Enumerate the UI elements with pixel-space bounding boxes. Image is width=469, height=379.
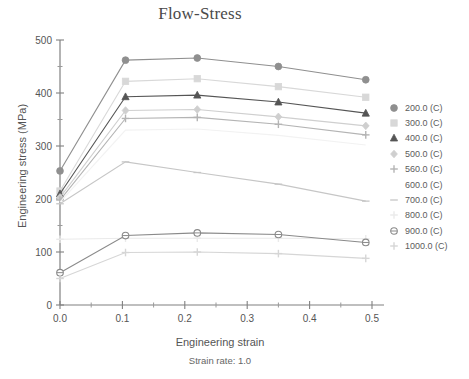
x-tick-label: 0.3 <box>240 313 254 324</box>
square-marker-icon <box>391 120 397 126</box>
series-400-0-c- <box>56 91 369 196</box>
series-560-0-c- <box>56 114 369 204</box>
circle-open-marker-icon <box>386 224 402 238</box>
y-tick-label: 0 <box>46 300 52 311</box>
legend-item-label: 500.0 (C) <box>402 149 443 159</box>
dash-marker-icon <box>386 193 402 207</box>
square-marker-icon <box>122 78 128 84</box>
marker-icon <box>386 208 402 222</box>
square-marker-icon <box>194 75 200 81</box>
x-axis-label: Engineering strain <box>55 336 385 348</box>
circle-marker-icon <box>386 101 402 115</box>
x-tick-label: 0.2 <box>178 313 192 324</box>
series-1000-0-c- <box>56 248 369 282</box>
y-tick-label: 200 <box>35 194 52 205</box>
diamond-marker-icon <box>391 150 398 158</box>
y-tick-label: 400 <box>35 88 52 99</box>
triangle-marker-icon <box>390 135 397 142</box>
series-line <box>60 95 366 194</box>
series-line <box>60 129 366 202</box>
diamond-marker-icon <box>362 122 369 130</box>
y-tick-label: 300 <box>35 141 52 152</box>
series-line <box>60 162 366 204</box>
diamond-marker-icon <box>275 113 282 121</box>
series-700-0-c- <box>56 162 369 204</box>
legend-item-600-0-c-[interactable]: 600.0 (C) <box>386 177 469 192</box>
legend-item-300-0-c-[interactable]: 300.0 (C) <box>386 115 469 130</box>
chart-legend: 200.0 (C)300.0 (C)400.0 (C)500.0 (C)560.… <box>386 100 469 254</box>
legend-item-560-0-c-[interactable]: 560.0 (C) <box>386 162 469 177</box>
series-500-0-c- <box>57 106 370 202</box>
x-tick-label: 0.0 <box>53 313 67 324</box>
strain-rate-caption: Strain rate: 1.0 <box>55 355 385 366</box>
circle-marker-icon <box>122 57 129 64</box>
legend-item-400-0-c-[interactable]: 400.0 (C) <box>386 131 469 146</box>
triangle-marker-icon <box>386 131 402 145</box>
circle-marker-icon <box>362 76 369 83</box>
diamond-marker-icon <box>194 106 201 114</box>
series-line <box>60 252 366 279</box>
legend-item-900-0-c-[interactable]: 900.0 (C) <box>386 223 469 238</box>
x-tick-label: 0.4 <box>303 313 317 324</box>
y-tick-label: 100 <box>35 247 52 258</box>
legend-item-1000-0-c-[interactable]: 1000.0 (C) <box>386 239 469 254</box>
legend-item-label: 200.0 (C) <box>402 103 443 113</box>
legend-item-label: 560.0 (C) <box>402 164 443 174</box>
legend-item-label: 800.0 (C) <box>402 210 443 220</box>
chart-container: Flow-Stress Engineering stress (MPa) 010… <box>0 0 469 379</box>
blank-marker-icon <box>386 178 402 192</box>
square-marker-icon <box>363 94 369 100</box>
plus-marker-icon <box>386 162 402 176</box>
square-marker-icon <box>275 83 281 89</box>
series-600-0-c- <box>60 129 366 202</box>
marker-icon <box>386 239 402 253</box>
legend-item-label: 900.0 (C) <box>402 226 443 236</box>
diamond-marker-icon <box>386 147 402 161</box>
legend-item-label: 600.0 (C) <box>402 180 443 190</box>
legend-item-label: 300.0 (C) <box>402 118 443 128</box>
circle-marker-icon <box>194 55 201 62</box>
circle-marker-icon <box>391 104 398 111</box>
legend-item-500-0-c-[interactable]: 500.0 (C) <box>386 146 469 161</box>
legend-item-label: 700.0 (C) <box>402 195 443 205</box>
y-tick-label: 500 <box>35 35 52 46</box>
square-marker-icon <box>386 116 402 130</box>
legend-item-label: 1000.0 (C) <box>402 241 448 251</box>
legend-item-200-0-c-[interactable]: 200.0 (C) <box>386 100 469 115</box>
legend-item-700-0-c-[interactable]: 700.0 (C) <box>386 192 469 207</box>
series-200-0-c- <box>57 55 370 175</box>
x-tick-label: 0.1 <box>115 313 129 324</box>
circle-marker-icon <box>275 63 282 70</box>
legend-item-label: 400.0 (C) <box>402 133 443 143</box>
legend-item-800-0-c-[interactable]: 800.0 (C) <box>386 208 469 223</box>
circle-marker-icon <box>57 168 64 175</box>
series-line <box>60 109 366 197</box>
x-tick-label: 0.5 <box>365 313 379 324</box>
